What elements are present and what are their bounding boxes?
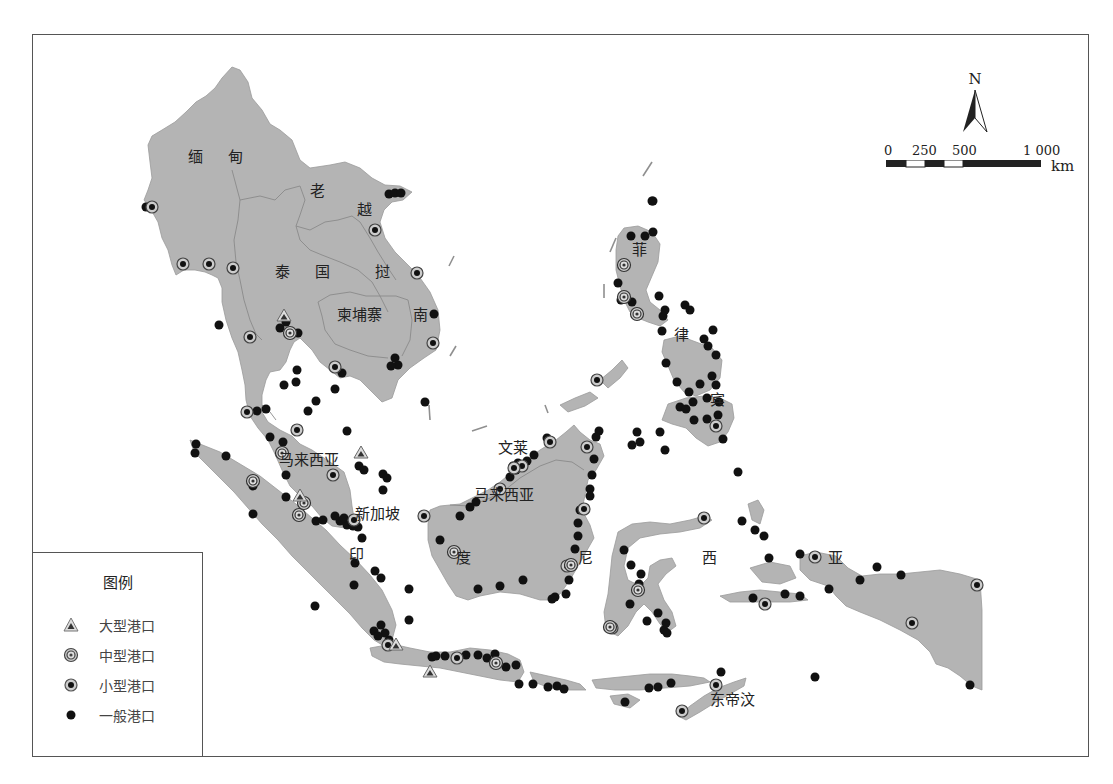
general-port-marker: [519, 576, 528, 585]
small-port-marker: [291, 424, 303, 436]
medium-port-marker: [604, 621, 617, 634]
general-port-marker: [496, 582, 505, 591]
general-port-marker: [649, 228, 658, 237]
general-port-marker: [421, 398, 430, 407]
general-port-marker: [515, 680, 524, 689]
small-port-marker: [508, 462, 520, 474]
small-port-marker: [581, 441, 593, 453]
general-port-marker: [760, 532, 769, 541]
country-label-indonesia-5: 亚: [828, 546, 853, 567]
general-port-marker: [661, 446, 670, 455]
country-label-thailand: 泰 国: [275, 260, 340, 281]
land-sulawesi: [604, 516, 712, 636]
general-port-marker: [765, 554, 774, 563]
general-port-marker: [661, 306, 670, 315]
general-port-marker: [262, 405, 271, 414]
general-port-marker: [192, 440, 201, 449]
legend-title: 图例: [33, 571, 202, 592]
general-port-marker: [714, 411, 723, 420]
country-label-philippines-2: 律: [674, 323, 699, 344]
general-port-marker: [966, 681, 975, 690]
small-port-marker: [971, 579, 983, 591]
small-port-marker: [809, 551, 821, 563]
small-port-marker: [411, 267, 423, 279]
general-port-marker: [387, 362, 396, 371]
country-label-malaysia-west: 马来西亚: [279, 448, 339, 469]
general-port-marker: [685, 388, 694, 397]
scale-bar: 02505001 000 km: [880, 143, 1080, 173]
country-label-laos: 老: [310, 179, 335, 200]
small-port-marker: [241, 406, 253, 418]
general-port-marker: [717, 668, 726, 677]
medium-port-marker: [293, 509, 306, 522]
north-arrow: N: [955, 70, 995, 140]
general-port-marker: [673, 378, 682, 387]
general-port-marker: [645, 684, 654, 693]
general-port-marker: [358, 534, 367, 543]
small-port-marker: [676, 705, 688, 717]
general-port-marker: [215, 321, 224, 330]
small-port-marker: [203, 258, 215, 270]
general-port-marker: [796, 592, 805, 601]
general-port-marker: [432, 652, 441, 661]
general-port-marker: [825, 585, 834, 594]
general-port-marker: [686, 306, 695, 315]
medium-port-marker: [247, 475, 260, 488]
small-port-marker: [327, 469, 339, 481]
general-port-marker: [712, 351, 721, 360]
large-port-marker: [354, 446, 368, 458]
general-port-marker: [628, 441, 637, 450]
scale-tick-label: 250: [912, 143, 937, 158]
legend: 图例 大型港口 中型港口 小型港口 一般港口: [33, 552, 203, 756]
general-port-marker: [397, 189, 406, 198]
general-port-marker: [405, 616, 414, 625]
medium-port-marker: [632, 584, 645, 597]
land-new-guinea: [800, 552, 982, 690]
general-port-marker: [565, 576, 574, 585]
general-port-marker: [191, 449, 200, 458]
general-port-marker: [626, 600, 635, 609]
general-port-marker: [586, 492, 595, 501]
medium-port-marker: [618, 291, 631, 304]
general-port-marker: [627, 561, 636, 570]
general-port-marker: [360, 466, 369, 475]
general-port-marker: [590, 455, 599, 464]
country-label-brunei: 文莱: [498, 436, 528, 457]
general-port-marker: [856, 576, 865, 585]
dot-icon: [61, 705, 81, 725]
general-port-marker: [249, 510, 258, 519]
general-port-marker: [738, 517, 747, 526]
country-label-singapore: 新加坡: [355, 502, 400, 523]
general-port-marker: [633, 428, 642, 437]
general-port-marker: [636, 438, 645, 447]
small-port-marker: [177, 258, 189, 270]
general-port-marker: [562, 590, 571, 599]
north-label: N: [955, 70, 995, 88]
general-port-marker: [656, 428, 665, 437]
general-port-marker: [643, 617, 652, 626]
country-label-indonesia-1: 印: [349, 543, 374, 564]
country-label-vietnam-3: 南: [413, 303, 438, 324]
general-port-marker: [709, 326, 718, 335]
legend-label: 小型港口: [99, 675, 155, 695]
general-port-marker: [873, 563, 882, 572]
general-port-marker: [377, 574, 386, 583]
general-port-marker: [682, 405, 691, 414]
general-port-marker: [319, 516, 328, 525]
general-port-marker: [405, 585, 414, 594]
general-port-marker: [751, 526, 760, 535]
general-port-marker: [811, 673, 820, 682]
general-port-marker: [704, 342, 713, 351]
country-label-philippines-3: 宾: [710, 388, 735, 409]
general-port-marker: [781, 590, 790, 599]
small-port-marker: [710, 420, 722, 432]
general-port-marker: [663, 629, 672, 638]
general-port-marker: [292, 378, 301, 387]
general-port-marker: [379, 486, 388, 495]
general-port-marker: [371, 567, 380, 576]
small-port-marker: [698, 512, 710, 524]
general-port-marker: [649, 197, 658, 206]
general-port-marker: [667, 679, 676, 688]
legend-item-medium-port: 中型港口: [61, 645, 155, 665]
general-port-marker: [279, 438, 288, 447]
